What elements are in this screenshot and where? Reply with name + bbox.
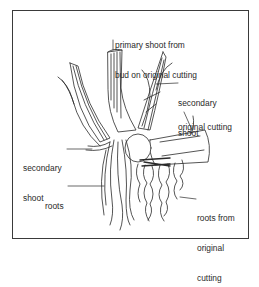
label-secondary-shoot-left-line1: secondary	[23, 163, 62, 173]
label-roots-text: roots	[45, 201, 64, 211]
label-original-cutting-text: original cutting	[178, 122, 232, 132]
cutting-roots-drawing	[136, 158, 183, 221]
left-secondary-shoot-drawing	[58, 63, 112, 151]
label-roots: roots	[45, 181, 64, 221]
label-primary-shoot-line1: primary shoot from	[115, 40, 197, 50]
label-roots-from-original-line2: original	[197, 243, 235, 253]
label-roots-from-original: roots from original cutting	[197, 193, 235, 287]
label-original-cutting: original cutting	[178, 102, 232, 142]
label-roots-from-original-line3: cutting	[197, 273, 235, 283]
leader-roots-from-cutting	[180, 197, 196, 199]
label-roots-from-original-line1: roots from	[197, 213, 235, 223]
roots-drawing	[101, 140, 134, 230]
node-drawing	[125, 134, 151, 162]
